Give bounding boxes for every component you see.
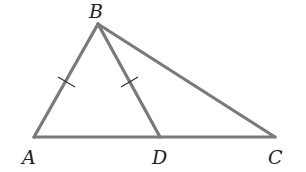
segment-ab bbox=[34, 24, 98, 137]
label-a: A bbox=[20, 146, 36, 168]
segment-bd bbox=[98, 24, 160, 137]
label-d: D bbox=[151, 146, 167, 168]
label-b: B bbox=[88, 0, 103, 22]
segment-bc bbox=[98, 24, 275, 137]
triangle-diagram: B A D C bbox=[0, 0, 306, 172]
diagram-svg: B A D C bbox=[0, 0, 306, 172]
label-c: C bbox=[268, 146, 283, 168]
